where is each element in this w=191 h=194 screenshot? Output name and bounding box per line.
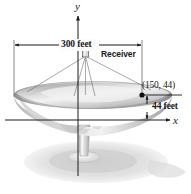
satellite-dish-diagram: y x 300 feet Receiver (150, 44) 44 feet [0,0,191,194]
rim-point-label: (150, 44) [142,81,175,91]
ground-shadow-group [24,141,186,183]
x-axis-label: x [173,115,178,126]
width-dimension-label: 300 feet [61,40,92,50]
receiver-label: Receiver [101,50,136,59]
y-axis-label: y [75,1,80,12]
depth-dimension-label: 44 feet [152,102,178,112]
diagram-canvas [0,0,191,194]
